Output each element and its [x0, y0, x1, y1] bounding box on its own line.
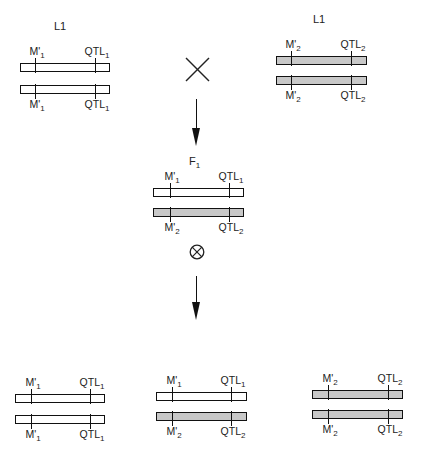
qtl-label: QTL1 [221, 375, 246, 389]
qtl-label: QTL2 [221, 426, 246, 440]
qtl-label: QTL2 [341, 39, 366, 53]
marker-label: M'1 [29, 99, 44, 113]
marker-label: M'2 [285, 39, 300, 53]
qtl-locus-tick [229, 183, 230, 198]
qtl-locus-tick [388, 409, 389, 424]
marker-locus-tick [291, 75, 292, 90]
qtl-locus-tick [231, 387, 232, 402]
parent-line-label: L1 [313, 13, 325, 25]
parent-1-chromosome [20, 85, 110, 94]
marker-label: M'2 [164, 222, 179, 236]
progeny-1-chromosome [15, 415, 105, 424]
qtl-label: QTL2 [378, 424, 403, 438]
qtl-locus-tick [95, 58, 96, 73]
cross-symbol-icon [185, 57, 210, 82]
qtl-locus-tick [90, 414, 91, 429]
marker-locus-tick [291, 51, 292, 66]
qtl-label: QTL2 [341, 90, 366, 104]
qtl-label: QTL1 [85, 46, 110, 60]
qtl-label: QTL1 [80, 429, 105, 443]
qtl-locus-tick [90, 389, 91, 404]
qtl-locus-tick [231, 411, 232, 426]
marker-locus-tick [35, 58, 36, 73]
marker-label: M'2 [322, 424, 337, 438]
marker-locus-tick [172, 411, 173, 426]
marker-locus-tick [31, 389, 32, 404]
qtl-label: QTL1 [80, 377, 105, 391]
parent-2-chromosome [276, 76, 367, 85]
qtl-locus-tick [351, 75, 352, 90]
marker-locus-tick [172, 387, 173, 402]
self-cross-icon [189, 244, 205, 260]
parent-line-label: L1 [54, 20, 66, 32]
marker-label: M'2 [285, 90, 300, 104]
marker-label: M'1 [166, 375, 181, 389]
marker-label: M'1 [25, 377, 40, 391]
qtl-locus-tick [351, 51, 352, 66]
marker-locus-tick [328, 409, 329, 424]
qtl-label: QTL2 [378, 373, 403, 387]
marker-label: M'1 [25, 429, 40, 443]
progeny-1-chromosome [15, 394, 105, 403]
qtl-locus-tick [95, 84, 96, 99]
marker-label: M'2 [322, 373, 337, 387]
marker-locus-tick [328, 385, 329, 400]
parent-1-chromosome [20, 63, 110, 72]
marker-locus-tick [31, 414, 32, 429]
qtl-locus-tick [388, 385, 389, 400]
f1-generation-label: F1 [189, 155, 200, 170]
qtl-label: QTL1 [85, 99, 110, 113]
marker-label: M'1 [164, 171, 179, 185]
marker-label: M'1 [29, 46, 44, 60]
progeny-2-chromosome [156, 392, 247, 401]
marker-locus-tick [170, 183, 171, 198]
parent-2-chromosome [276, 56, 367, 65]
qtl-label: QTL2 [219, 222, 244, 236]
marker-locus-tick [35, 84, 36, 99]
qtl-locus-tick [229, 207, 230, 222]
progeny-2-chromosome [156, 412, 247, 421]
marker-label: M'2 [166, 426, 181, 440]
qtl-label: QTL1 [219, 171, 244, 185]
marker-locus-tick [170, 207, 171, 222]
